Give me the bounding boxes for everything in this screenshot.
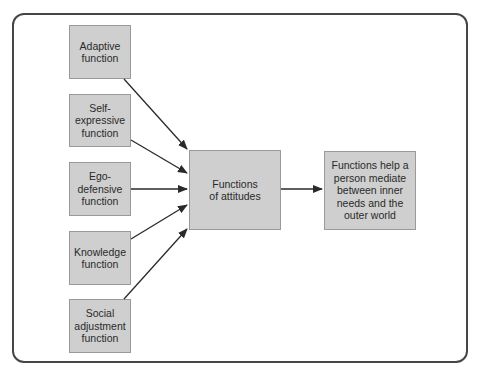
arrow-social-adjustment (124, 229, 187, 299)
arrow-adaptive (124, 79, 187, 149)
arrow-self-expressive (131, 140, 187, 173)
connector-arrows (0, 0, 483, 376)
arrow-knowledge (131, 205, 187, 239)
